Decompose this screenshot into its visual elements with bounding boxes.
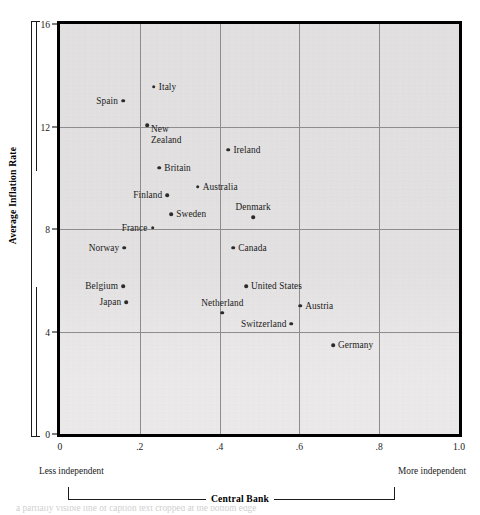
y-axis-tick-label: 16: [28, 19, 50, 30]
data-point-label: Austria: [305, 301, 333, 312]
x-axis-tick-label: 1.0: [453, 441, 465, 452]
data-point: [231, 246, 235, 250]
data-point: [290, 322, 294, 326]
data-point-label: Japan: [100, 297, 122, 308]
x-axis-tick-label: .4: [216, 441, 223, 452]
plot-background: ItalySpainNew ZealandIrelandBritainAustr…: [60, 24, 459, 434]
data-point: [145, 123, 149, 127]
y-axis-title: Average Inflation Rate: [7, 121, 18, 271]
data-point: [158, 166, 162, 170]
data-point: [152, 85, 156, 89]
data-point-label: Spain: [96, 96, 118, 107]
x-axis-tick-label: .6: [296, 441, 303, 452]
data-point-label: Italy: [159, 81, 177, 92]
data-point-label: Ireland: [233, 144, 260, 155]
y-axis-title-rule-top: [36, 21, 37, 171]
data-point-label: Australia: [203, 181, 238, 192]
x-axis-low-end-label: Less independent: [39, 466, 104, 476]
data-point: [331, 344, 335, 348]
data-point-label: United States: [251, 281, 302, 292]
x-axis-title-text: Central Bank: [206, 493, 274, 504]
cropped-caption: a partially visible line of caption text…: [16, 506, 464, 515]
data-point-label: Germany: [338, 340, 373, 351]
data-point-label: Switzerland: [241, 318, 287, 329]
x-axis-tick-label: 0: [58, 441, 63, 452]
y-axis-tick-label: 0: [28, 429, 50, 440]
data-point-label: Finland: [133, 190, 162, 201]
data-point-label: Belgium: [85, 281, 118, 292]
x-axis-title: Central Bank: [0, 493, 480, 504]
data-point: [121, 99, 125, 103]
x-axis-tick-label: .2: [136, 441, 143, 452]
data-point: [196, 185, 200, 189]
cropped-caption-text: a partially visible line of caption text…: [16, 506, 464, 514]
data-point: [121, 284, 125, 288]
data-point: [151, 226, 155, 230]
x-axis-high-end-label: More independent: [398, 466, 466, 476]
gridline-horizontal: [60, 229, 459, 230]
data-point-label: New Zealand: [151, 124, 182, 145]
data-point-label: Denmark: [235, 203, 270, 214]
gridline-horizontal: [60, 332, 459, 333]
data-point: [251, 215, 255, 219]
data-point-label: Sweden: [176, 209, 206, 220]
data-point: [122, 246, 126, 250]
data-point-label: France: [122, 222, 148, 233]
y-axis-tick-label: 4: [28, 326, 50, 337]
plot-area: ItalySpainNew ZealandIrelandBritainAustr…: [57, 21, 462, 437]
data-point: [170, 212, 174, 216]
y-axis-tick-label: 12: [28, 121, 50, 132]
data-point: [298, 304, 302, 308]
data-point-label: Norway: [89, 242, 120, 253]
x-axis-tick-label: .8: [376, 441, 383, 452]
y-axis-tick-label: 8: [28, 224, 50, 235]
y-axis-title-rule-bottom: [36, 287, 37, 437]
data-point-label: Britain: [164, 162, 191, 173]
data-point: [221, 311, 225, 315]
gridline-horizontal: [60, 127, 459, 128]
data-point: [166, 194, 170, 198]
data-point: [124, 300, 128, 304]
data-point: [227, 148, 231, 152]
scatter-plot-figure: Average Inflation Rate 0481216 ItalySpai…: [0, 0, 480, 515]
data-point: [244, 284, 248, 288]
data-point-label: Netherland: [201, 298, 243, 309]
data-point-label: Canada: [238, 242, 266, 253]
